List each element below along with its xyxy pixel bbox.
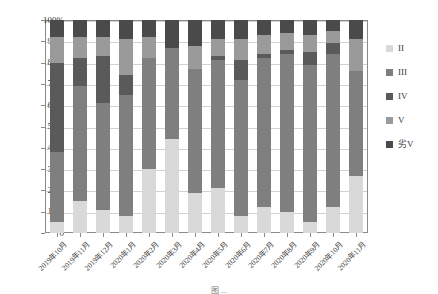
bar-6[interactable] bbox=[165, 20, 179, 233]
bar-segment[interactable] bbox=[188, 46, 202, 69]
bar-segment[interactable] bbox=[96, 210, 110, 233]
bar-7[interactable] bbox=[188, 20, 202, 233]
chart-legend: IIIIIIVV劣V bbox=[386, 36, 436, 156]
bar-segment[interactable] bbox=[234, 60, 248, 79]
bar-13[interactable] bbox=[326, 20, 340, 233]
x-axis-tick-mark bbox=[287, 233, 288, 237]
bar-2[interactable] bbox=[73, 20, 87, 233]
x-axis-tick-mark bbox=[172, 233, 173, 237]
legend-item-label: II bbox=[398, 44, 404, 53]
bar-segment[interactable] bbox=[257, 58, 271, 207]
bar-segment[interactable] bbox=[165, 139, 179, 233]
x-axis-tick-mark bbox=[310, 233, 311, 237]
bar-segment[interactable] bbox=[50, 222, 64, 233]
bar-segment[interactable] bbox=[96, 103, 110, 210]
bar-segment[interactable] bbox=[257, 20, 271, 35]
bar-segment[interactable] bbox=[142, 37, 156, 58]
bar-segment[interactable] bbox=[50, 152, 64, 222]
bar-segment[interactable] bbox=[96, 37, 110, 56]
bar-segment[interactable] bbox=[349, 20, 363, 39]
bar-segment[interactable] bbox=[211, 56, 225, 60]
bar-segment[interactable] bbox=[165, 48, 179, 140]
bar-segment[interactable] bbox=[73, 58, 87, 86]
bar-segment[interactable] bbox=[119, 95, 133, 216]
bar-segment[interactable] bbox=[280, 212, 294, 233]
bar-segment[interactable] bbox=[326, 54, 340, 207]
bars-layer bbox=[45, 20, 368, 233]
legend-item-label: V bbox=[398, 116, 405, 125]
legend-item-V[interactable]: V bbox=[386, 108, 436, 132]
legend-item-II[interactable]: II bbox=[386, 36, 436, 60]
bar-segment[interactable] bbox=[280, 50, 294, 54]
bar-segment[interactable] bbox=[119, 39, 133, 75]
bar-3[interactable] bbox=[96, 20, 110, 233]
bar-10[interactable] bbox=[257, 20, 271, 233]
bar-segment[interactable] bbox=[96, 20, 110, 37]
x-axis-tick-mark bbox=[356, 233, 357, 237]
bar-segment[interactable] bbox=[119, 216, 133, 233]
bar-segment[interactable] bbox=[303, 20, 317, 35]
bar-segment[interactable] bbox=[211, 39, 225, 56]
legend-swatch-icon bbox=[386, 141, 393, 148]
bar-segment[interactable] bbox=[50, 63, 64, 152]
x-axis-tick-mark bbox=[195, 233, 196, 237]
bar-segment[interactable] bbox=[50, 37, 64, 63]
bar-segment[interactable] bbox=[257, 207, 271, 233]
bar-segment[interactable] bbox=[73, 201, 87, 233]
bar-segment[interactable] bbox=[211, 188, 225, 233]
bar-segment[interactable] bbox=[119, 75, 133, 94]
legend-swatch-icon bbox=[386, 117, 393, 124]
bar-segment[interactable] bbox=[303, 35, 317, 52]
legend-swatch-icon bbox=[386, 69, 393, 76]
bar-9[interactable] bbox=[234, 20, 248, 233]
bar-segment[interactable] bbox=[73, 20, 87, 37]
bar-segment[interactable] bbox=[326, 207, 340, 233]
bar-segment[interactable] bbox=[234, 80, 248, 216]
bar-segment[interactable] bbox=[188, 193, 202, 233]
bar-4[interactable] bbox=[119, 20, 133, 233]
bar-1[interactable] bbox=[50, 20, 64, 233]
x-axis-tick-mark bbox=[103, 233, 104, 237]
bar-5[interactable] bbox=[142, 20, 156, 233]
legend-item-III[interactable]: III bbox=[386, 60, 436, 84]
bar-segment[interactable] bbox=[349, 39, 363, 71]
bar-segment[interactable] bbox=[257, 35, 271, 54]
bar-segment[interactable] bbox=[211, 20, 225, 39]
legend-swatch-icon bbox=[386, 93, 393, 100]
bar-segment[interactable] bbox=[142, 169, 156, 233]
bar-11[interactable] bbox=[280, 20, 294, 233]
bar-segment[interactable] bbox=[280, 20, 294, 33]
bar-segment[interactable] bbox=[234, 20, 248, 39]
x-axis-tick-mark bbox=[333, 233, 334, 237]
bar-segment[interactable] bbox=[234, 216, 248, 233]
legend-item-IV[interactable]: IV bbox=[386, 84, 436, 108]
bar-segment[interactable] bbox=[142, 58, 156, 169]
bar-8[interactable] bbox=[211, 20, 225, 233]
bar-segment[interactable] bbox=[303, 52, 317, 65]
bar-segment[interactable] bbox=[349, 176, 363, 234]
bar-segment[interactable] bbox=[326, 43, 340, 54]
bar-segment[interactable] bbox=[73, 37, 87, 58]
bar-segment[interactable] bbox=[326, 31, 340, 44]
bar-12[interactable] bbox=[303, 20, 317, 233]
bar-segment[interactable] bbox=[349, 71, 363, 175]
bar-segment[interactable] bbox=[211, 60, 225, 188]
bar-segment[interactable] bbox=[96, 56, 110, 103]
bar-segment[interactable] bbox=[73, 86, 87, 201]
bar-segment[interactable] bbox=[303, 222, 317, 233]
bar-segment[interactable] bbox=[234, 39, 248, 60]
legend-item-label: III bbox=[398, 68, 407, 77]
bar-segment[interactable] bbox=[142, 20, 156, 37]
bar-segment[interactable] bbox=[119, 20, 133, 39]
bar-14[interactable] bbox=[349, 20, 363, 233]
bar-segment[interactable] bbox=[303, 65, 317, 223]
bar-segment[interactable] bbox=[280, 33, 294, 50]
bar-segment[interactable] bbox=[326, 20, 340, 31]
bar-segment[interactable] bbox=[165, 20, 179, 48]
bar-segment[interactable] bbox=[50, 20, 64, 37]
bar-segment[interactable] bbox=[188, 69, 202, 193]
bar-segment[interactable] bbox=[280, 54, 294, 212]
bar-segment[interactable] bbox=[188, 20, 202, 46]
bar-segment[interactable] bbox=[257, 54, 271, 58]
legend-item-劣V[interactable]: 劣V bbox=[386, 132, 436, 156]
